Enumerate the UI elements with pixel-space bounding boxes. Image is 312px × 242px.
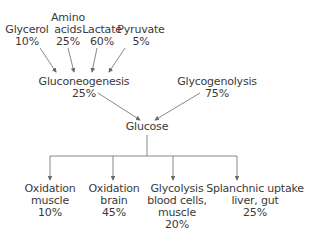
source-percent: 10% bbox=[5, 36, 48, 48]
node-percent: 25% bbox=[39, 88, 130, 100]
source-lactate: Lactate 60% bbox=[82, 24, 122, 48]
node-label: Glucose bbox=[126, 121, 168, 133]
fate-oxidation-muscle: Oxidation muscle 10% bbox=[24, 183, 75, 219]
source-percent: 60% bbox=[82, 36, 122, 48]
glycogenolysis-node: Glycogenolysis 75% bbox=[177, 76, 257, 100]
fate-glycolysis: Glycolysis blood cells, muscle 20% bbox=[147, 183, 207, 231]
gluconeogenesis-node: Gluconeogenesis 25% bbox=[39, 76, 130, 100]
fate-percent: 10% bbox=[24, 207, 75, 219]
source-amino-acids: Amino acids 25% bbox=[51, 12, 85, 48]
fate-percent: 45% bbox=[88, 207, 139, 219]
node-percent: 75% bbox=[177, 88, 257, 100]
source-percent: 5% bbox=[117, 36, 164, 48]
fate-oxidation-brain: Oxidation brain 45% bbox=[88, 183, 139, 219]
source-pyruvate: Pyruvate 5% bbox=[117, 24, 164, 48]
source-glycerol: Glycerol 10% bbox=[5, 24, 48, 48]
glucose-node: Glucose bbox=[126, 121, 168, 133]
fate-splanchnic-uptake: Splanchnic uptake liver, gut 25% bbox=[206, 183, 304, 219]
fate-percent: 20% bbox=[147, 219, 207, 231]
source-percent: 25% bbox=[51, 36, 85, 48]
fate-percent: 25% bbox=[206, 207, 304, 219]
